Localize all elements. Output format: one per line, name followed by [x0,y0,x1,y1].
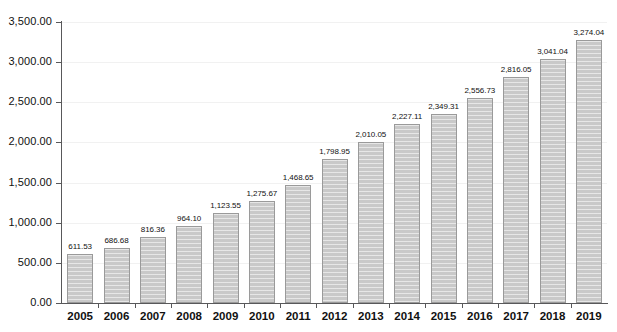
y-axis-tick-label: 0.00 [0,296,52,308]
bar[interactable] [394,124,420,303]
y-axis-tick [56,22,62,23]
y-axis-labels: 3,500.003,000.002,500.002,000.001,500.00… [0,0,52,332]
y-axis-line [61,21,62,304]
bar-value-label: 816.36 [127,225,179,234]
x-axis-tick [353,304,354,308]
y-axis-tick [56,303,62,304]
y-axis-tick [56,263,62,264]
bar-chart: 3,500.003,000.002,500.002,000.001,500.00… [0,0,617,332]
x-axis-category-label: 2019 [563,310,615,322]
bar[interactable] [358,142,384,303]
x-axis-tick [462,304,463,308]
bar[interactable] [285,185,311,303]
y-axis-tick-label: 3,500.00 [0,15,52,27]
bar[interactable] [140,237,166,303]
bar[interactable] [322,159,348,303]
y-axis-tick-label: 3,000.00 [0,55,52,67]
bar[interactable] [67,254,93,303]
gridline [62,62,607,63]
bar-value-label: 686.68 [91,236,143,245]
bar-value-label: 964.10 [163,214,215,223]
x-axis-tick [425,304,426,308]
bar[interactable] [176,226,202,303]
y-axis-tick-label: 1,500.00 [0,176,52,188]
bar-value-label: 1,468.65 [272,173,324,182]
bar-value-label: 2,556.73 [454,86,506,95]
x-axis-tick [207,304,208,308]
bar[interactable] [467,98,493,303]
bar[interactable] [249,201,275,303]
bar-value-label: 1,275.67 [236,189,288,198]
bar-value-label: 2,227.11 [381,112,433,121]
bar-value-label: 2,010.05 [345,130,397,139]
y-axis-tick-label: 1,000.00 [0,216,52,228]
y-axis-tick-label: 2,000.00 [0,135,52,147]
bar[interactable] [213,213,239,303]
y-axis-tick-label: 500.00 [0,256,52,268]
y-axis-tick [56,223,62,224]
x-axis-tick [389,304,390,308]
bar[interactable] [104,248,130,303]
bar-value-label: 3,274.04 [563,28,615,37]
bar-value-label: 2,816.05 [490,65,542,74]
bar[interactable] [503,77,529,303]
gridline [62,22,607,23]
x-axis-tick [534,304,535,308]
x-axis-tick [171,304,172,308]
x-axis-tick [316,304,317,308]
y-axis-tick [56,183,62,184]
x-axis-line [61,303,608,304]
x-axis-tick [135,304,136,308]
bar-value-label: 2,349.31 [418,102,470,111]
y-axis-tick [56,62,62,63]
bar-value-label: 1,798.95 [309,147,361,156]
y-axis-tick [56,142,62,143]
x-axis-tick [98,304,99,308]
bar[interactable] [540,59,566,303]
bar[interactable] [576,40,602,303]
bar-value-label: 3,041.04 [527,47,579,56]
bar-value-label: 1,123.55 [200,201,252,210]
x-axis-tick [571,304,572,308]
x-axis-tick [280,304,281,308]
bar[interactable] [431,114,457,303]
y-axis-tick [56,102,62,103]
x-axis-tick [244,304,245,308]
x-axis-tick [498,304,499,308]
y-axis-tick-label: 2,500.00 [0,95,52,107]
